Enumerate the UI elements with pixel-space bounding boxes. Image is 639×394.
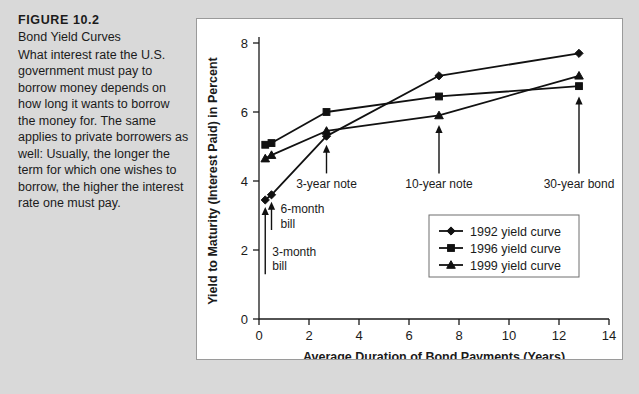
- annotation-label: 3-month: [272, 245, 316, 259]
- annotation-arrowhead: [435, 125, 442, 133]
- yield-curve-chart: 0246802468101214Average Duration of Bond…: [197, 19, 622, 359]
- x-tick-label: 2: [305, 328, 312, 343]
- y-axis-title: Yield to Maturity (Interest Paid) in Per…: [206, 56, 220, 304]
- figure-caption: FIGURE 10.2 Bond Yield Curves What inter…: [18, 12, 190, 212]
- annotation-label: 30-year bond: [544, 177, 615, 191]
- series-marker: [436, 93, 443, 100]
- x-tick-label: 14: [602, 328, 616, 343]
- figure-body-text: What interest rate the U.S. government m…: [18, 47, 190, 212]
- series-marker: [575, 71, 584, 79]
- annotation-label: bill: [281, 217, 296, 231]
- x-tick-label: 0: [255, 328, 262, 343]
- series-line: [265, 86, 579, 145]
- annotation-arrowhead: [268, 202, 275, 210]
- x-tick-label: 12: [552, 328, 566, 343]
- y-tick-label: 0: [241, 312, 248, 327]
- y-tick-label: 6: [241, 105, 248, 120]
- annotation-label: 3-year note: [296, 177, 357, 191]
- annotation-arrowhead: [323, 145, 330, 153]
- annotation-label: bill: [272, 259, 287, 273]
- figure-page: FIGURE 10.2 Bond Yield Curves What inter…: [0, 0, 639, 394]
- legend-marker: [448, 245, 455, 252]
- figure-subtitle: Bond Yield Curves: [18, 29, 190, 46]
- y-tick-label: 4: [241, 174, 248, 189]
- x-tick-label: 10: [502, 328, 516, 343]
- x-tick-label: 6: [405, 328, 412, 343]
- legend-label: 1999 yield curve: [470, 259, 561, 273]
- y-tick-label: 8: [241, 36, 248, 51]
- legend-label: 1992 yield curve: [470, 225, 561, 239]
- series-marker: [268, 140, 275, 147]
- legend-label: 1996 yield curve: [470, 242, 561, 256]
- annotation-label: 6-month: [281, 202, 325, 216]
- series-marker: [323, 109, 330, 116]
- series-marker: [576, 83, 583, 90]
- annotation-arrowhead: [262, 207, 269, 215]
- series-line: [265, 76, 579, 159]
- annotation-label: 10-year note: [405, 177, 473, 191]
- y-tick-label: 2: [241, 243, 248, 258]
- series-marker: [575, 49, 583, 57]
- figure-number: FIGURE 10.2: [18, 12, 190, 28]
- x-tick-label: 8: [455, 328, 462, 343]
- annotation-arrowhead: [575, 96, 582, 104]
- series-marker: [435, 72, 443, 80]
- x-axis-title: Average Duration of Bond Payments (Years…: [303, 350, 565, 359]
- chart-panel: 0246802468101214Average Duration of Bond…: [196, 18, 623, 360]
- x-tick-label: 4: [355, 328, 362, 343]
